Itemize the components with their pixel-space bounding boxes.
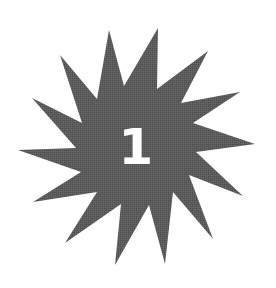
star-burst-badge: 1 [0, 0, 276, 288]
badge-number: 1 [119, 122, 154, 172]
